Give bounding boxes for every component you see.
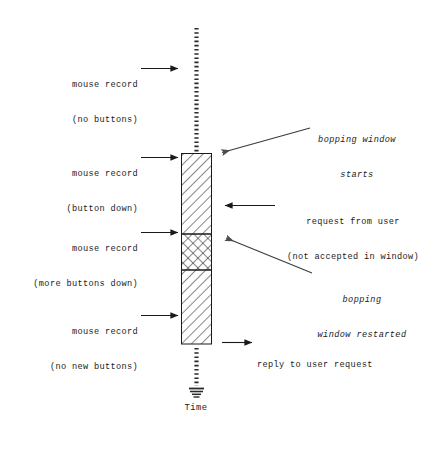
segment-bopping-window-first — [182, 154, 212, 235]
label-mouse-record-no-buttons: mouse record (no buttons) — [20, 57, 138, 149]
label-line-1: bopping — [300, 295, 424, 307]
label-line-1: mouse record — [20, 80, 138, 92]
label-line-1: mouse record — [14, 327, 138, 339]
label-reply-to-user-request: reply to user request — [257, 337, 427, 395]
label-line-1: reply to user request — [257, 360, 427, 372]
label-line-2: (no buttons) — [20, 115, 138, 127]
segment-bopping-window-overlap — [182, 234, 212, 270]
axis-caption-time: Time — [156, 403, 236, 413]
label-line-2: starts — [296, 170, 418, 182]
label-mouse-record-more-buttons-down: mouse record (more buttons down) — [10, 221, 138, 313]
label-line-1: mouse record — [20, 169, 138, 181]
label-mouse-record-no-new-buttons: mouse record (no new buttons) — [14, 304, 138, 396]
segment-bopping-window-restarted — [182, 270, 212, 344]
label-line-1: bopping window — [296, 135, 418, 147]
label-line-2: (button down) — [20, 204, 138, 216]
bopping-window-bar — [182, 154, 212, 345]
ground-symbol-icon — [189, 389, 204, 398]
diagram-page: mouse record (no buttons) mouse record (… — [0, 0, 428, 450]
label-line-1: request from user — [278, 217, 428, 229]
label-bopping-window-starts: bopping window starts — [296, 112, 418, 204]
label-line-2: (more buttons down) — [10, 279, 138, 291]
label-line-2: (not accepted in window) — [278, 252, 428, 264]
label-line-2: (no new buttons) — [14, 362, 138, 374]
left-arrow-group — [141, 69, 178, 316]
label-line-1: mouse record — [10, 244, 138, 256]
